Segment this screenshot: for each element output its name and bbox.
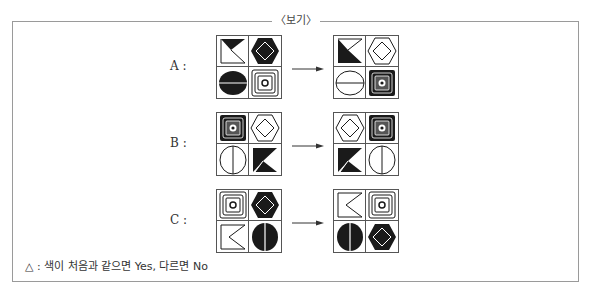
circle-icon: [218, 145, 248, 175]
example-box-title: 〈보기〉: [272, 14, 320, 28]
shape-cell: [366, 190, 398, 221]
shape-cell: [334, 36, 366, 67]
note-text: : 색이 처음과 같으면 Yes, 다르면 No: [33, 260, 207, 273]
shape-cell: [334, 190, 366, 221]
flag-shape-icon: [250, 145, 280, 175]
arrow-right-icon: [292, 220, 324, 226]
concentric-square-icon: [367, 113, 397, 143]
flag-shape-icon: [335, 145, 365, 175]
shape-cell: [249, 113, 281, 144]
shape-cell: [366, 36, 398, 67]
shape-cell: [249, 67, 281, 98]
arrow-right-icon: [292, 66, 324, 72]
example-row-a: A :: [0, 35, 593, 101]
row-label: A :: [170, 59, 187, 73]
hexagon-icon: [250, 190, 280, 220]
before-grid: [216, 35, 282, 99]
arrow-right-icon: [292, 143, 324, 149]
row-label: B :: [170, 136, 187, 150]
after-grid: [333, 112, 399, 176]
flag-shape-icon: [218, 36, 248, 66]
after-grid: [333, 189, 399, 253]
shape-cell: [217, 67, 249, 98]
circle-icon: [367, 145, 397, 175]
concentric-square-icon: [367, 68, 397, 98]
circle-icon: [335, 222, 365, 252]
concentric-square-icon: [218, 190, 248, 220]
shape-cell: [217, 113, 249, 144]
shape-cell: [334, 221, 366, 252]
before-grid: [216, 189, 282, 253]
shape-cell: [249, 144, 281, 175]
flag-shape-icon: [335, 190, 365, 220]
shape-cell: [366, 221, 398, 252]
shape-cell: [217, 190, 249, 221]
circle-icon: [250, 222, 280, 252]
row-label: C :: [170, 213, 187, 227]
concentric-square-icon: [218, 113, 248, 143]
shape-cell: [249, 36, 281, 67]
shape-cell: [217, 221, 249, 252]
after-grid: [333, 35, 399, 99]
concentric-square-icon: [367, 190, 397, 220]
shape-cell: [249, 221, 281, 252]
example-row-c: C :: [0, 189, 593, 255]
shape-cell: [217, 36, 249, 67]
shape-cell: [366, 144, 398, 175]
hexagon-icon: [250, 113, 280, 143]
circle-icon: [218, 68, 248, 98]
flag-shape-icon: [218, 222, 248, 252]
hexagon-icon: [250, 36, 280, 66]
hexagon-icon: [335, 113, 365, 143]
shape-cell: [366, 67, 398, 98]
shape-cell: [334, 113, 366, 144]
example-row-b: B :: [0, 112, 593, 178]
shape-cell: [366, 113, 398, 144]
shape-cell: [334, 67, 366, 98]
hexagon-icon: [367, 222, 397, 252]
legend-note: △ : 색이 처음과 같으면 Yes, 다르면 No: [25, 257, 208, 273]
shape-cell: [334, 144, 366, 175]
concentric-square-icon: [250, 68, 280, 98]
hexagon-icon: [367, 36, 397, 66]
circle-icon: [335, 68, 365, 98]
before-grid: [216, 112, 282, 176]
flag-shape-icon: [335, 36, 365, 66]
shape-cell: [249, 190, 281, 221]
shape-cell: [217, 144, 249, 175]
